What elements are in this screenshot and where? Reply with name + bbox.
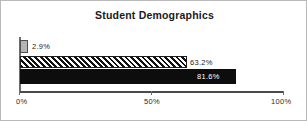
bar-label-series-2: 63.2% bbox=[190, 58, 213, 67]
bar-series-2 bbox=[20, 56, 187, 68]
x-axis-label-0: 0% bbox=[16, 97, 27, 106]
x-axis-label-100: 100% bbox=[271, 97, 291, 106]
x-axis-tick-0 bbox=[19, 91, 20, 95]
plot-area: 0% 50% 100% 2.9% 63.2% 81.6% bbox=[1, 1, 307, 121]
bar-label-series-3: 81.6% bbox=[197, 72, 220, 81]
x-axis-tick-50 bbox=[151, 91, 152, 95]
x-axis-tick-100 bbox=[283, 91, 284, 95]
chart-frame: Student Demographics 0% 50% 100% 2.9% 63… bbox=[0, 0, 307, 121]
bar-series-1 bbox=[20, 40, 28, 53]
x-axis-label-50: 50% bbox=[144, 97, 160, 106]
bar-label-series-1: 2.9% bbox=[32, 42, 50, 51]
